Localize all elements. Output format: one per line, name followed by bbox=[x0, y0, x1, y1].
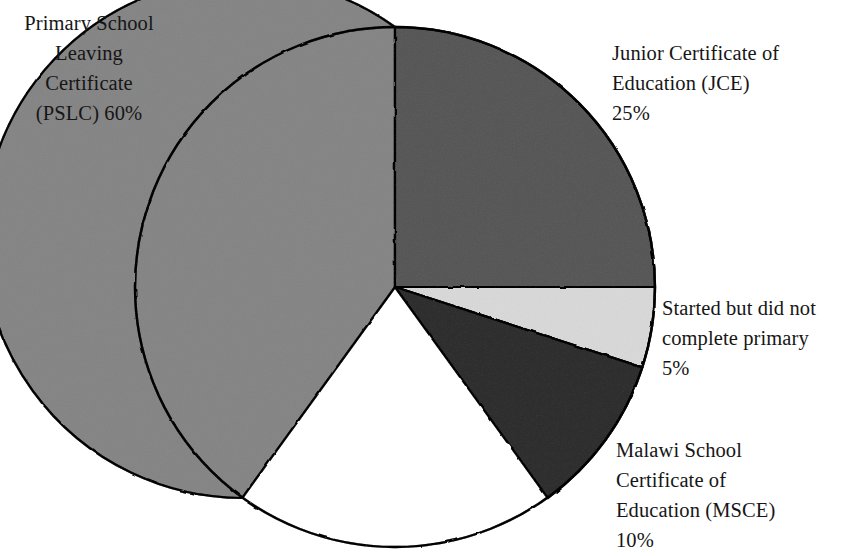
pie-label-msce: Malawi School Certificate of Education (… bbox=[616, 435, 851, 555]
pie-label-jce: Junior Certificate of Education (JCE) 25… bbox=[612, 38, 852, 128]
pie-chart-figure: Primary School Leaving Certificate (PSLC… bbox=[0, 0, 859, 556]
pie-label-pslc: Primary School Leaving Certificate (PSLC… bbox=[0, 8, 178, 128]
pie-label-started-not-complete-primary: Started but did not complete primary 5% bbox=[662, 293, 859, 383]
